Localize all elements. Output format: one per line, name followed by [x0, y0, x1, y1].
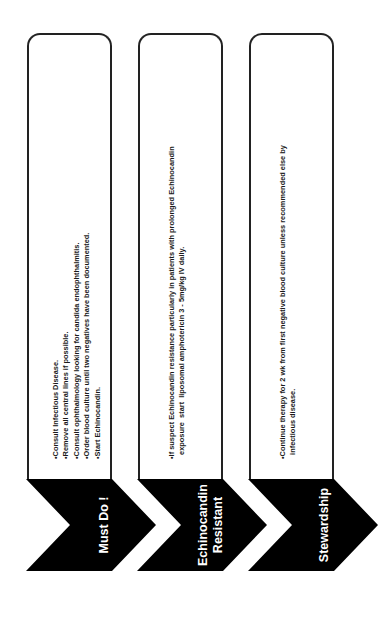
bullet: •Consult ophthalmology looking for candi… — [71, 47, 81, 459]
bullet: infectious disease. — [288, 47, 298, 459]
chevron-shape-icon — [248, 479, 378, 572]
step-1-bullets: •Consult Infectious Disease. •Remove all… — [36, 47, 102, 467]
step-2-bullets: •If suspect Echinocandin resistance part… — [174, 47, 187, 467]
step-1-label: Must Do ! — [97, 497, 112, 554]
step-1-content-box: •Consult Infectious Disease. •Remove all… — [27, 33, 112, 479]
step-2-content-box: •If suspect Echinocandin resistance part… — [138, 33, 223, 479]
bullet: •If suspect Echinocandin resistance part… — [166, 47, 176, 459]
bullet: •Consult Infectious Disease. — [50, 47, 60, 459]
bullet: •Order blood culture until two negatives… — [82, 47, 92, 459]
bullet: exposure start liposomal amphotericin 3 … — [177, 47, 187, 459]
step-3-label: Stewardship — [317, 488, 332, 562]
bullet: •Start Echinocandin. — [92, 47, 102, 459]
step-2-label: Echinocandin Resistant — [196, 484, 226, 566]
bullet: •Continue therapy for 2 wk from first ne… — [277, 47, 287, 459]
bullet: •Remove all central lines if possible. — [61, 47, 71, 459]
step-3-content-box: •Continue therapy for 2 wk from first ne… — [249, 33, 334, 479]
step-3-chevron: Stewardship — [248, 479, 378, 572]
step-3-bullets: •Continue therapy for 2 wk from first ne… — [285, 47, 298, 467]
